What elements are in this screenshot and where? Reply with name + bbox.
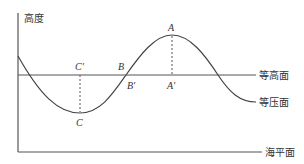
isohypse-label: 等高面 <box>259 69 289 81</box>
point-c-label: C <box>76 117 83 128</box>
point-a-label: A <box>167 22 175 33</box>
point-b-prime-label: B' <box>127 80 136 91</box>
point-b-label: B <box>118 61 124 72</box>
sea-level-label: 海平面 <box>265 146 295 158</box>
point-c-prime-label: C' <box>75 61 85 72</box>
point-a-prime-label: A' <box>166 80 176 91</box>
isobaric-surface-diagram: 高度 等高面 等压面 海平面 A A' B B' C' C <box>0 0 304 164</box>
axis-label: 高度 <box>24 12 44 24</box>
isobar-curve <box>18 35 256 113</box>
isobar-label: 等压面 <box>259 96 289 108</box>
